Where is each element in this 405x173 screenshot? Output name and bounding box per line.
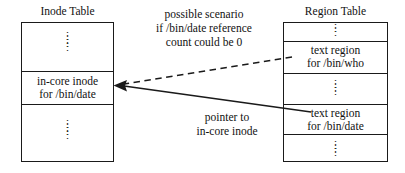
pointer-line-1: pointer to: [168, 110, 286, 124]
region-table-title: Region Table: [283, 5, 388, 18]
region-date-line1: text region: [284, 107, 387, 121]
region-who-line1: text region: [284, 44, 387, 58]
region-who-line2: for /bin/who: [284, 57, 387, 71]
scenario-line-3: count could be 0: [128, 35, 280, 49]
inode-table: ⋮ ⋮ ⋮ ⋮ in-core inode for /bin/date ⋮ ⋮ …: [21, 22, 114, 162]
inode-table-ellipsis-top: ⋮ ⋮ ⋮ ⋮: [22, 35, 113, 49]
inode-table-ellipsis-bottom: ⋮ ⋮ ⋮ ⋮: [22, 123, 113, 137]
inode-table-divider-2: [22, 104, 113, 105]
dashed-connector-who-to-inode: [124, 57, 292, 84]
region-table: ⋮ ⋮ text region for /bin/who ⋮ ⋮ ⋮ text …: [283, 22, 388, 162]
region-table-ellipsis-2: ⋮ ⋮ ⋮: [284, 83, 387, 94]
diagram-canvas: Inode Table ⋮ ⋮ ⋮ ⋮ in-core inode for /b…: [0, 0, 405, 173]
pointer-line-2: in-core inode: [168, 124, 286, 138]
region-table-divider-3: [284, 104, 387, 105]
inode-entry-line2: for /bin/date: [22, 88, 113, 102]
inode-table-divider-1: [22, 71, 113, 72]
arrowhead-icon: [114, 80, 128, 92]
pointer-annotation: pointer to in-core inode: [168, 110, 286, 138]
region-table-ellipsis-3: ⋮ ⋮ ⋮: [284, 144, 387, 155]
region-table-divider-1: [284, 41, 387, 42]
region-date-line2: for /bin/date: [284, 120, 387, 134]
region-table-divider-4: [284, 134, 387, 135]
scenario-line-1: possible scenario: [128, 7, 280, 21]
scenario-line-2: if /bin/date reference: [128, 21, 280, 35]
inode-entry-line1: in-core inode: [22, 75, 113, 89]
inode-table-title: Inode Table: [21, 5, 114, 18]
region-table-ellipsis-1: ⋮ ⋮: [284, 27, 387, 34]
region-table-divider-2: [284, 73, 387, 74]
scenario-annotation: possible scenario if /bin/date reference…: [128, 7, 280, 49]
